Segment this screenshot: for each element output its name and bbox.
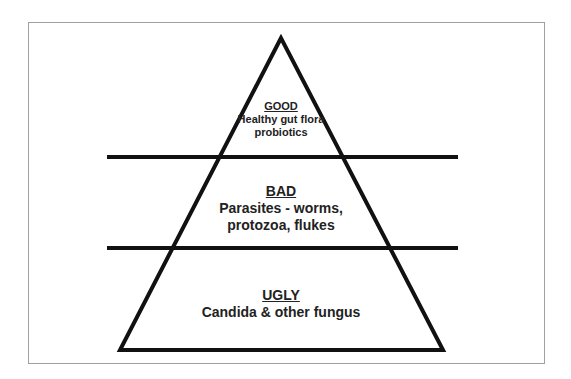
tier-good: GOOD Healthy gut flora probiotics <box>238 100 325 140</box>
tier-bad-line-2: protozoa, flukes <box>219 217 343 234</box>
tier-bad-line-1: Parasites - worms, <box>219 200 343 217</box>
tier-ugly-line-1: Candida & other fungus <box>202 304 361 321</box>
tier-bad: BAD Parasites - worms, protozoa, flukes <box>219 183 343 233</box>
tier-good-line-2: probiotics <box>238 126 325 139</box>
tier-bad-title: BAD <box>219 183 343 200</box>
tier-ugly-title: UGLY <box>202 287 361 304</box>
tier-good-line-1: Healthy gut flora <box>238 113 325 126</box>
tier-good-title: GOOD <box>238 100 325 113</box>
tier-ugly: UGLY Candida & other fungus <box>202 287 361 321</box>
